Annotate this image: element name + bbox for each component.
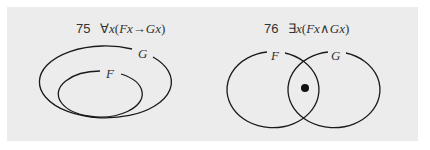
diagram-76: 76 ∃x(Fx∧Gx) F G	[227, 21, 380, 128]
venn-figures: 75 ∀x(Fx→Gx) G F 76 ∃x(Fx∧Gx) F G	[0, 0, 430, 150]
diagram-75-number: 75	[76, 21, 90, 36]
diagram-76-formula: ∃x(Fx∧Gx)	[288, 21, 349, 36]
set-g-label: G	[331, 48, 341, 63]
set-g-outer-ellipse	[39, 46, 171, 118]
conjunction-icon: ∧	[320, 21, 330, 36]
universal-quantifier-icon: ∀	[100, 21, 109, 36]
set-f-label: F	[105, 66, 115, 81]
diagram-75: 75 ∀x(Fx→Gx) G F	[39, 21, 171, 118]
diagram-76-number: 76	[264, 21, 278, 36]
set-f-label: F	[270, 48, 280, 63]
set-f-inner-ellipse	[58, 71, 142, 117]
diagram-75-formula: ∀x(Fx→Gx)	[100, 21, 165, 36]
set-g-label: G	[138, 46, 148, 61]
element-dot-icon	[301, 84, 309, 92]
implication-arrow-icon: →	[133, 21, 146, 36]
existential-quantifier-icon: ∃	[288, 21, 296, 36]
